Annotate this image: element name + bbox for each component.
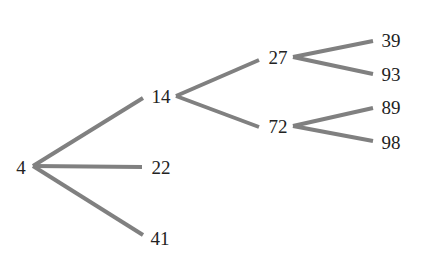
edge-72-89 bbox=[293, 108, 373, 126]
edge-4-41 bbox=[33, 166, 143, 235]
node-89: 89 bbox=[382, 98, 401, 117]
node-27: 27 bbox=[269, 48, 288, 67]
edge-4-14 bbox=[33, 98, 143, 166]
edge-27-39 bbox=[293, 41, 373, 57]
node-93: 93 bbox=[382, 65, 401, 84]
node-14: 14 bbox=[152, 87, 171, 106]
node-4: 4 bbox=[16, 158, 26, 177]
edge-72-98 bbox=[293, 126, 373, 141]
node-39: 39 bbox=[382, 31, 401, 50]
node-22: 22 bbox=[152, 158, 171, 177]
node-72: 72 bbox=[269, 117, 288, 136]
node-41: 41 bbox=[151, 229, 170, 248]
edge-27-93 bbox=[293, 57, 373, 74]
node-98: 98 bbox=[382, 133, 401, 152]
edge-14-72 bbox=[176, 96, 259, 127]
edge-14-27 bbox=[176, 60, 259, 96]
tree-diagram: 4142241277239938998 bbox=[0, 0, 423, 269]
edge-4-22 bbox=[33, 166, 142, 167]
tree-edges bbox=[0, 0, 423, 269]
